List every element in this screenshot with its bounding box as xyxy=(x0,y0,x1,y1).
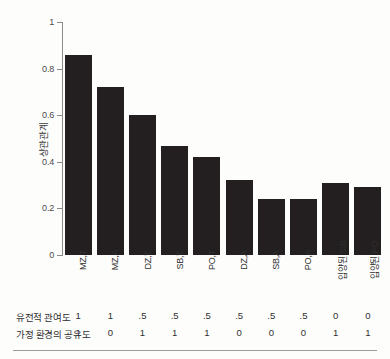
y-axis-tick-mark xyxy=(57,115,62,116)
annotation-cell: .5 xyxy=(235,310,243,321)
annotation-cell: 0 xyxy=(333,310,338,321)
bar xyxy=(193,157,220,255)
annotation-cell: 1 xyxy=(365,327,370,338)
y-axis-tick-mark xyxy=(57,69,62,70)
annotation-cell: 1 xyxy=(75,310,80,321)
annotation-cell: 1 xyxy=(75,327,80,338)
annotation-cell: .5 xyxy=(203,310,211,321)
plot-area xyxy=(62,22,384,255)
annotation-row: 유전적 관여도11.5.5.5.5.5.500 xyxy=(0,310,390,327)
annotation-table: 유전적 관여도11.5.5.5.5.5.500가정 환경의 공유도1011100… xyxy=(0,310,390,344)
annotation-rule xyxy=(13,350,377,351)
annotation-cell: 0 xyxy=(301,327,306,338)
bar xyxy=(258,199,285,255)
annotation-cell: .5 xyxy=(267,310,275,321)
y-axis-tick-label: 0.4 xyxy=(42,157,54,167)
annotation-cell: 0 xyxy=(269,327,274,338)
y-axis-tick-label: 0.8 xyxy=(42,64,54,74)
y-axis-tick-mark xyxy=(57,22,62,23)
y-axis-tick-mark xyxy=(57,162,62,163)
x-axis-tick-label: MZ,A xyxy=(94,258,126,304)
y-axis-tick-labels: 10.80.60.40.20 xyxy=(0,0,54,359)
annotation-cell: 1 xyxy=(333,327,338,338)
x-axis-tick-label-text: DZ,T xyxy=(142,250,152,269)
x-axis-tick-label: 입양된 PO xyxy=(352,258,384,304)
x-axis-tick-label: DZ,A xyxy=(223,258,255,304)
y-axis-tick-label: 0.6 xyxy=(42,110,54,120)
x-axis-tick-label: PO,A xyxy=(287,258,319,304)
bar xyxy=(226,180,253,255)
x-axis-tick-label: MZ,T xyxy=(62,258,94,304)
y-axis-tick-mark xyxy=(57,208,62,209)
annotation-cell: .5 xyxy=(300,310,308,321)
annotation-cell: 1 xyxy=(204,327,209,338)
x-axis-tick-label-text: SB,A xyxy=(271,250,281,270)
x-axis-tick-label-text: MZ,T xyxy=(78,250,88,270)
x-axis-tick-label-text: 입양된 SIB xyxy=(336,240,349,280)
x-axis-tick-label: SB,T xyxy=(159,258,191,304)
bar xyxy=(290,199,317,255)
y-axis-tick-label: 0 xyxy=(49,250,54,260)
x-axis-tick-label-text: SB,T xyxy=(175,250,185,269)
bar xyxy=(65,55,92,255)
annotation-cell: 1 xyxy=(172,327,177,338)
annotation-cell: 1 xyxy=(140,327,145,338)
annotation-cell: 0 xyxy=(365,310,370,321)
x-axis-tick-label-text: MZ,A xyxy=(110,250,120,271)
y-axis-tick-label: 0.2 xyxy=(42,203,54,213)
correlation-bar-chart-figure: 상관관계 10.80.60.40.20 MZ,TMZ,ADZ,TSB,TPO,T… xyxy=(0,0,390,359)
x-axis-tick-label: PO,T xyxy=(191,258,223,304)
annotation-cell: .5 xyxy=(171,310,179,321)
x-axis-tick-label: SB,A xyxy=(255,258,287,304)
y-axis-tick-label: 1 xyxy=(49,17,54,27)
annotation-cell: 0 xyxy=(236,327,241,338)
x-axis-tick-label-text: PO,A xyxy=(303,250,313,271)
bar xyxy=(129,115,156,255)
x-axis-tick-label: DZ,T xyxy=(126,258,158,304)
annotation-cell: .5 xyxy=(139,310,147,321)
annotation-row: 가정 환경의 공유도1011100011 xyxy=(0,327,390,344)
x-axis-tick-label: 입양된 SIB xyxy=(320,258,352,304)
x-axis-tick-labels: MZ,TMZ,ADZ,TSB,TPO,TDZ,ASB,APO,A입양된 SIB입… xyxy=(62,258,384,306)
bar xyxy=(161,146,188,256)
annotation-cell: 1 xyxy=(108,310,113,321)
bar xyxy=(97,87,124,255)
annotation-cell: 0 xyxy=(108,327,113,338)
x-axis-tick-label-text: 입양된 PO xyxy=(368,241,381,279)
y-axis-tick-mark xyxy=(57,255,62,256)
x-axis-tick-label-text: DZ,A xyxy=(239,250,249,270)
annotation-row-label: 유전적 관여도 xyxy=(16,310,71,324)
x-axis-tick-label-text: PO,T xyxy=(207,250,217,270)
bar-series xyxy=(62,22,384,255)
